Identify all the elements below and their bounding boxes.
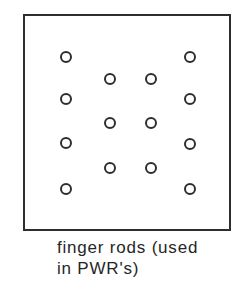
finger-rod bbox=[184, 51, 196, 63]
finger-rod bbox=[184, 183, 196, 195]
caption-line-1: finger rods (used bbox=[57, 237, 198, 258]
figure-finger-rods: finger rods (used in PWR's) bbox=[0, 0, 235, 284]
finger-rod bbox=[60, 51, 72, 63]
finger-rod bbox=[60, 93, 72, 105]
finger-rod bbox=[104, 117, 116, 129]
assembly-outline bbox=[23, 14, 231, 231]
finger-rod bbox=[60, 183, 72, 195]
finger-rod bbox=[184, 138, 196, 150]
finger-rod bbox=[145, 73, 157, 85]
finger-rod bbox=[104, 73, 116, 85]
finger-rod bbox=[145, 117, 157, 129]
finger-rod bbox=[184, 93, 196, 105]
finger-rod bbox=[104, 162, 116, 174]
finger-rod bbox=[145, 162, 157, 174]
figure-caption: finger rods (used in PWR's) bbox=[57, 237, 198, 279]
finger-rod bbox=[60, 137, 72, 149]
caption-line-2: in PWR's) bbox=[57, 258, 198, 279]
